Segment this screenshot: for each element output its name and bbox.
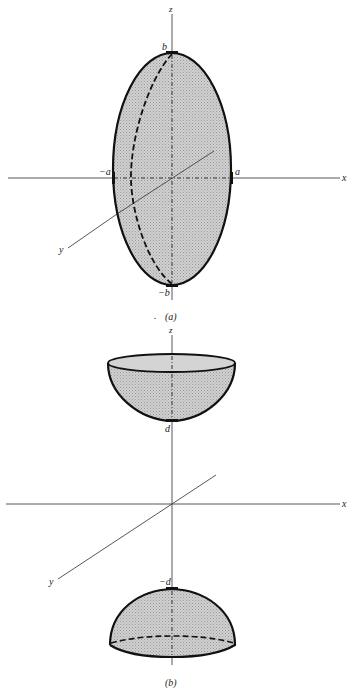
- y-axis-a-front: [68, 214, 117, 248]
- panel-b: z d x y −d (b): [6, 325, 347, 689]
- label-b: b: [162, 41, 167, 52]
- label-z-a: z: [168, 4, 173, 14]
- label-y-a: y: [58, 244, 64, 255]
- caption-a: (a): [165, 311, 177, 323]
- ellipsoid-diagram: z b −a a x y −b . (a) z d x: [0, 0, 357, 690]
- tick-a: [230, 172, 233, 184]
- tick-minus-a: [112, 172, 115, 184]
- y-axis-b: [58, 475, 216, 579]
- label-y-b: y: [48, 576, 54, 587]
- label-minus-b: −b: [158, 287, 170, 298]
- label-minus-a: −a: [99, 166, 111, 177]
- caption-b: (b): [165, 677, 177, 689]
- label-a: a: [235, 166, 240, 177]
- stray-dot: .: [154, 310, 157, 321]
- label-x-a: x: [341, 172, 347, 183]
- label-z-b: z: [168, 325, 173, 335]
- panel-a: z b −a a x y −b . (a): [8, 4, 347, 323]
- tick-d: [166, 419, 178, 422]
- label-x-b: x: [341, 498, 347, 509]
- label-minus-d: −d: [159, 576, 172, 587]
- tick-minus-d: [166, 587, 178, 590]
- tick-b: [166, 51, 178, 54]
- label-d: d: [165, 423, 171, 434]
